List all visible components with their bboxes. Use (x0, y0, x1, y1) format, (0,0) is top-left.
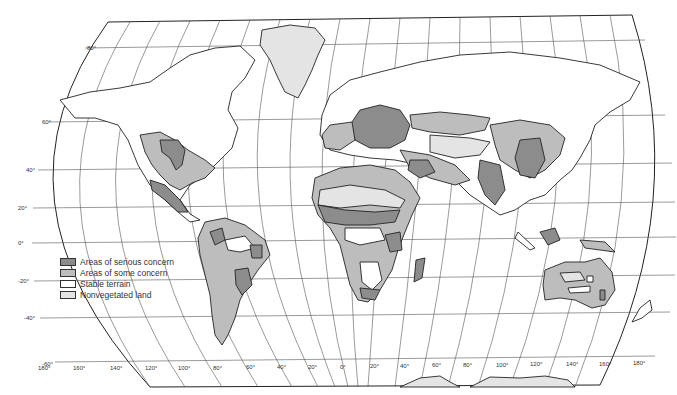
legend-swatch-nonvegetated (60, 291, 76, 299)
svg-text:100°: 100° (178, 365, 191, 371)
svg-text:140°: 140° (110, 365, 123, 371)
svg-text:-20°: -20° (18, 278, 30, 284)
legend-item-some: Areas of some concern (60, 267, 174, 278)
map-legend: Areas of serious concern Areas of some c… (60, 256, 174, 300)
svg-text:20°: 20° (370, 363, 380, 369)
svg-text:0°: 0° (340, 364, 346, 370)
legend-item-nonvegetated: Nonvegetated land (60, 289, 174, 300)
svg-text:20°: 20° (308, 364, 318, 370)
legend-item-stable: Stable terrain (60, 278, 174, 289)
svg-text:180°: 180° (38, 365, 51, 371)
svg-text:20°: 20° (18, 205, 28, 211)
svg-text:0°: 0° (18, 240, 24, 246)
svg-text:160°: 160° (599, 361, 612, 367)
svg-text:40°: 40° (277, 364, 287, 370)
svg-text:120°: 120° (530, 361, 543, 367)
legend-swatch-some (60, 269, 76, 277)
svg-text:180°: 180° (633, 360, 646, 366)
svg-text:80°: 80° (463, 362, 473, 368)
new-zealand (632, 300, 652, 322)
legend-swatch-stable (60, 280, 76, 288)
svg-text:60°: 60° (432, 362, 442, 368)
legend-swatch-serious (60, 258, 76, 266)
legend-label: Areas of some concern (80, 268, 167, 278)
svg-text:100°: 100° (496, 362, 509, 368)
svg-text:120°: 120° (145, 365, 158, 371)
svg-text:-40°: -40° (24, 315, 36, 321)
legend-label: Areas of serious concern (80, 257, 174, 267)
world-map: 80° 60° 40° 20° 0° -20° -40° -60° 180° 1… (0, 0, 677, 395)
svg-text:40°: 40° (400, 363, 410, 369)
svg-text:40°: 40° (26, 167, 36, 173)
svg-text:60°: 60° (246, 364, 256, 370)
svg-text:160°: 160° (73, 365, 86, 371)
legend-item-serious: Areas of serious concern (60, 256, 174, 267)
legend-label: Stable terrain (80, 279, 131, 289)
svg-text:80°: 80° (87, 45, 97, 51)
svg-text:80°: 80° (213, 365, 223, 371)
svg-text:140°: 140° (566, 361, 579, 367)
legend-label: Nonvegetated land (80, 290, 151, 300)
svg-text:60°: 60° (42, 119, 52, 125)
